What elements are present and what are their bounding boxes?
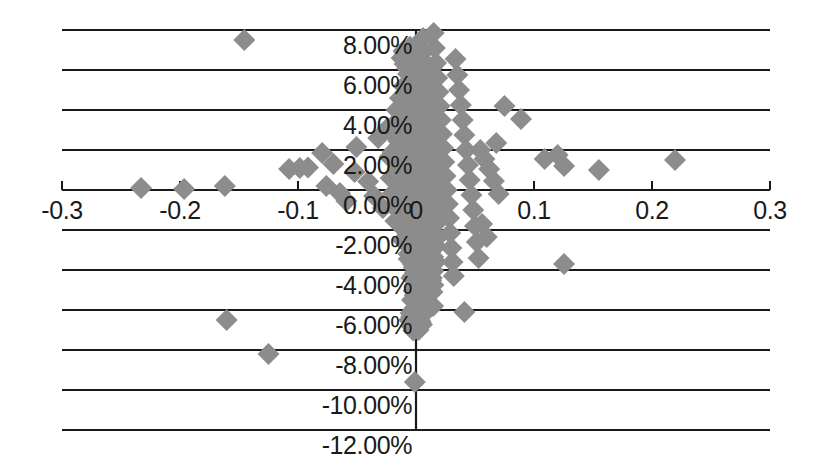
data-point-marker (664, 149, 686, 171)
y-axis-tick-label: -10.00% (322, 391, 412, 420)
x-axis-tick-label: 0.2 (612, 196, 692, 225)
data-point-marker (468, 247, 490, 269)
data-point-marker (214, 175, 236, 197)
y-axis-tick-label: -8.00% (335, 351, 412, 380)
y-axis-tick-label: -4.00% (335, 271, 412, 300)
data-point-marker (258, 343, 280, 365)
x-axis-tick-label: 0.1 (494, 196, 574, 225)
y-axis-tick-label: 8.00% (343, 31, 412, 60)
data-point-marker (553, 253, 575, 275)
y-axis-tick-label: -6.00% (335, 311, 412, 340)
data-point-marker (510, 108, 532, 130)
scatter-chart: 8.00%6.00%4.00%2.00%0.00%-2.00%-4.00%-6.… (0, 0, 818, 476)
data-point-marker (453, 301, 475, 323)
x-axis-tick-label: 0.3 (730, 196, 810, 225)
y-axis-tick-label: -12.00% (322, 431, 412, 460)
data-point-marker (588, 159, 610, 181)
data-point-marker (216, 309, 238, 331)
y-axis-tick-label: 4.00% (343, 111, 412, 140)
x-axis-tick-label: -0.1 (258, 196, 338, 225)
x-axis-tick-label: -0.3 (22, 196, 102, 225)
y-axis-tick-label: -2.00% (335, 231, 412, 260)
x-axis-tick-label: 0 (376, 196, 456, 225)
data-point-marker (443, 265, 465, 287)
x-axis-tick-label: -0.2 (140, 196, 220, 225)
data-point-marker (233, 29, 255, 51)
y-axis-tick-label: 2.00% (343, 151, 412, 180)
y-axis-tick-label: 6.00% (343, 71, 412, 100)
data-point-marker (494, 95, 516, 117)
